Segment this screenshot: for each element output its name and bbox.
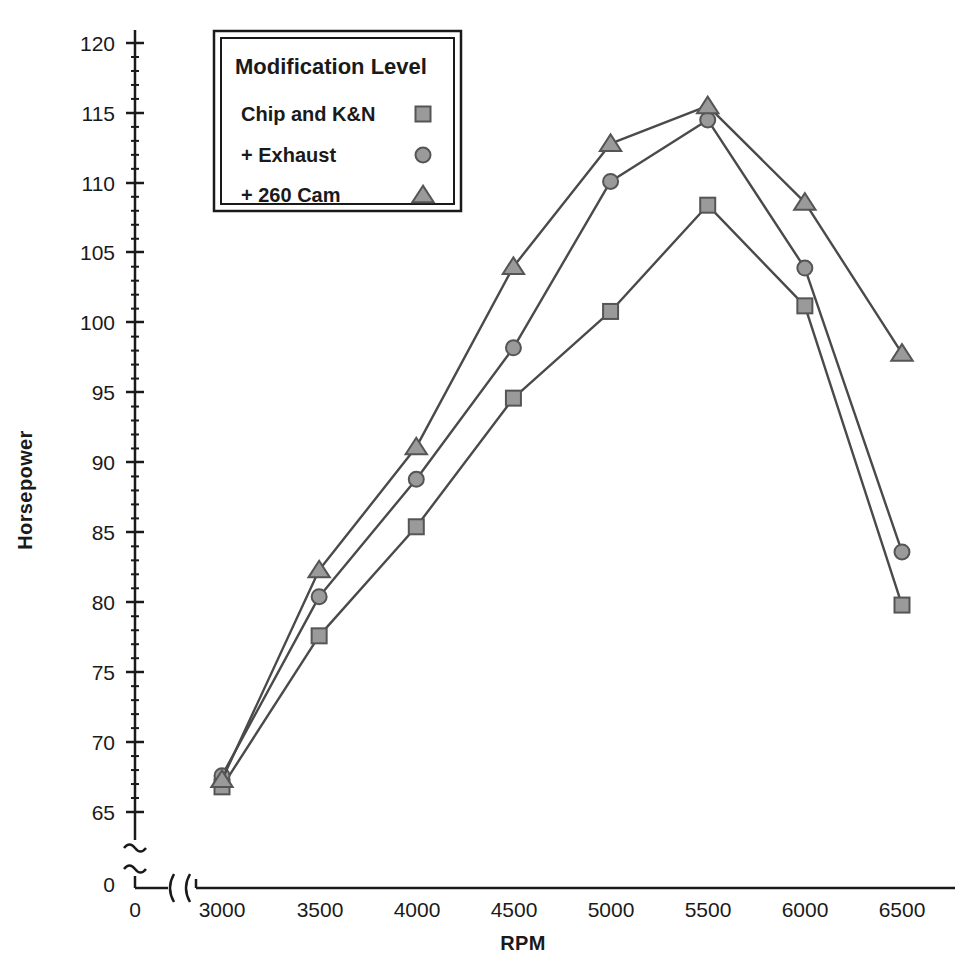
x-axis-tick-label: 5500: [685, 898, 732, 921]
y-axis-tick-label: 95: [92, 381, 115, 404]
data-point-circle: [409, 472, 424, 487]
y-axis-tick-label: 115: [82, 102, 115, 125]
data-point-circle: [895, 544, 910, 559]
data-point-square: [312, 628, 327, 643]
x-axis-tick-label: 5000: [588, 898, 635, 921]
legend-title: Modification Level: [235, 54, 427, 79]
data-point-square: [409, 519, 424, 534]
x-axis-tick-label: 6500: [879, 898, 926, 921]
legend-entry-2[interactable]: + Exhaust: [241, 144, 431, 166]
y-axis-tick-label: 80: [92, 591, 115, 614]
legend-entry-label: Chip and K&N: [241, 103, 375, 125]
legend-marker-square: [416, 107, 431, 122]
y-axis-tick-label: 75: [92, 661, 115, 684]
series-line: [222, 120, 902, 776]
legend-entry-1[interactable]: Chip and K&N: [241, 103, 431, 125]
y-axis-break-upper: [124, 845, 146, 852]
y-axis-tick-label: 105: [80, 241, 115, 264]
horsepower-vs-rpm-chart: 1201151101051009590858075706500300035004…: [0, 0, 969, 970]
x-axis-tick-label: 4000: [394, 898, 441, 921]
y-axis-tick-label: 65: [92, 801, 115, 824]
y-axis-tick-label: 110: [82, 172, 115, 195]
x-axis-tick-label: 3500: [297, 898, 344, 921]
data-point-circle: [506, 340, 521, 355]
legend-marker-triangle: [412, 186, 433, 203]
x-axis-break-right: [186, 874, 190, 902]
x-axis-break-left: [170, 874, 174, 902]
x-axis-tick-label: 4500: [491, 898, 538, 921]
chart-canvas: 1201151101051009590858075706500300035004…: [0, 0, 969, 970]
y-axis-tick-label: 70: [92, 731, 115, 754]
y-axis-tick-label: 85: [92, 521, 115, 544]
data-point-square: [797, 298, 812, 313]
y-axis-tick-label: 0: [103, 873, 115, 896]
data-point-square: [700, 198, 715, 213]
y-axis-break-lower: [124, 866, 146, 873]
x-axis-title: RPM: [500, 932, 546, 954]
data-point-triangle: [503, 257, 524, 274]
data-point-circle: [603, 174, 618, 189]
series-1: [215, 198, 910, 795]
data-point-circle: [700, 112, 715, 127]
data-point-triangle: [891, 344, 912, 361]
data-point-square: [895, 598, 910, 613]
series-line: [222, 205, 902, 787]
data-point-circle: [312, 589, 327, 604]
data-point-circle: [797, 261, 812, 276]
legend-entry-label: + 260 Cam: [241, 184, 341, 206]
x-axis-tick-label: 6000: [782, 898, 829, 921]
legend-entry-3[interactable]: + 260 Cam: [241, 184, 434, 206]
x-axis-tick-label: 3000: [199, 898, 246, 921]
legend: Modification LevelChip and K&N+ Exhaust+…: [214, 31, 461, 211]
data-point-triangle: [600, 134, 621, 151]
x-axis-tick-label: 0: [129, 898, 141, 921]
y-axis-tick-label: 100: [80, 311, 115, 334]
data-point-triangle: [697, 97, 718, 114]
data-point-square: [603, 304, 618, 319]
data-point-triangle: [406, 438, 427, 455]
legend-entry-label: + Exhaust: [241, 144, 336, 166]
y-axis-tick-label: 120: [80, 32, 115, 55]
y-axis-tick-label: 90: [92, 451, 115, 474]
legend-marker-circle: [416, 148, 431, 163]
data-point-triangle: [308, 561, 329, 578]
data-point-square: [506, 391, 521, 406]
series-2: [215, 112, 910, 783]
y-axis-title: Horsepower: [14, 430, 36, 550]
